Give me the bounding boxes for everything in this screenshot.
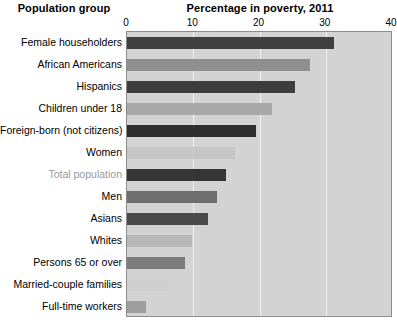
bar-row xyxy=(127,54,391,76)
bar xyxy=(127,59,310,71)
x-tick-label-10: 10 xyxy=(187,17,198,28)
bar-row xyxy=(127,164,391,186)
category-label: Children under 18 xyxy=(0,97,122,119)
bar xyxy=(127,301,146,313)
category-label: Full-time workers xyxy=(0,295,122,317)
chart-title: Percentage in poverty, 2011 xyxy=(128,2,392,14)
category-axis-labels: Female householdersAfrican AmericansHisp… xyxy=(0,31,122,317)
bar xyxy=(127,147,235,159)
bar xyxy=(127,191,217,203)
bar xyxy=(127,169,226,181)
category-label: Men xyxy=(0,185,122,207)
bar xyxy=(127,125,256,137)
x-tick-label-40: 40 xyxy=(385,17,396,28)
category-label: Total population xyxy=(0,163,122,185)
category-label: Women xyxy=(0,141,122,163)
x-tick-label-30: 30 xyxy=(319,17,330,28)
category-label: Asians xyxy=(0,207,122,229)
bar xyxy=(127,235,192,247)
bar xyxy=(127,81,295,93)
bar-row xyxy=(127,296,391,317)
category-label: Female householders xyxy=(0,31,122,53)
x-tick-label-0: 0 xyxy=(123,17,129,28)
bars-container xyxy=(127,32,391,316)
bar xyxy=(127,103,272,115)
bar-row xyxy=(127,76,391,98)
category-label: Foreign-born (not citizens) xyxy=(0,119,122,141)
plot-area xyxy=(126,31,392,317)
population-group-heading: Population group xyxy=(0,2,128,14)
bar-row xyxy=(127,32,391,54)
bar xyxy=(127,213,208,225)
bar-row xyxy=(127,142,391,164)
bar-row xyxy=(127,230,391,252)
bar-row xyxy=(127,186,391,208)
bar-row xyxy=(127,120,391,142)
category-label: African Americans xyxy=(0,53,122,75)
bar-row xyxy=(127,98,391,120)
bar-row xyxy=(127,274,391,296)
category-label: Hispanics xyxy=(0,75,122,97)
category-label: Persons 65 or over xyxy=(0,251,122,273)
bar-row xyxy=(127,252,391,274)
x-tick-label-20: 20 xyxy=(253,17,264,28)
bar xyxy=(127,37,334,49)
bar xyxy=(127,257,185,269)
category-label: Married-couple families xyxy=(0,273,122,295)
bar xyxy=(127,279,168,291)
bar-row xyxy=(127,208,391,230)
x-axis-tick-labels: 010203040 xyxy=(0,17,396,30)
category-label: Whites xyxy=(0,229,122,251)
